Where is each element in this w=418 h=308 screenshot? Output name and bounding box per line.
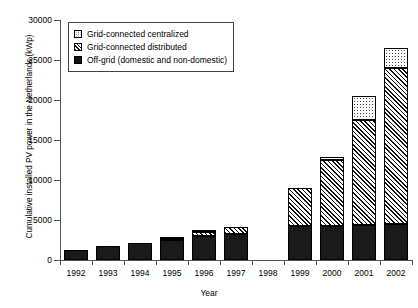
bar-segment [384,68,408,224]
x-axis-tick [92,260,93,265]
x-axis-tick [284,260,285,265]
pv-power-bar-chart: Cumulative installed PV power in the Net… [0,0,418,308]
y-axis-tick [54,140,60,141]
bar-segment [320,160,344,226]
bar-segment [160,237,184,239]
y-axis-tick [54,60,60,61]
y-axis-tick-label: 15000 [0,136,52,145]
y-axis-tick-label: 25000 [0,56,52,65]
legend-item-label: Grid-connected distributed [87,43,187,52]
bar-segment [288,226,312,260]
x-axis-tick [220,260,221,265]
legend-item: Grid-connected centralized [74,28,227,40]
y-axis-tick [54,180,60,181]
legend-item-label: Off-grid (domestic and non-domestic) [87,56,227,65]
x-axis-tick [380,260,381,265]
bar-segment [288,188,312,226]
bar-segment [192,232,216,236]
bar-segment [128,243,152,260]
legend-item: Off-grid (domestic and non-domestic) [74,54,227,66]
y-axis-tick-label: 30000 [0,16,52,25]
x-axis-tick-label: 2002 [376,268,416,278]
x-axis-title: Year [0,288,418,298]
filled-square-icon [74,56,82,64]
x-axis-tick [252,260,253,265]
bar-segment [64,250,88,260]
x-axis-tick [316,260,317,265]
bar-segment [352,120,376,225]
bar-segment [96,246,120,260]
bar-segment [160,240,184,260]
x-axis-line [60,260,413,261]
hatched-square-icon [74,43,82,51]
bar-segment [352,96,376,120]
y-axis-tick-labels: 050001000015000200002500030000 [0,0,52,308]
legend-item-label: Grid-connected centralized [87,30,189,39]
y-axis-tick-label: 20000 [0,96,52,105]
bar-segment [224,234,248,260]
y-axis-tick [54,220,60,221]
bar-segment [224,227,248,233]
legend-item: Grid-connected distributed [74,41,227,53]
bar-segment [320,226,344,260]
chart-legend: Grid-connected centralizedGrid-connected… [68,22,234,72]
x-axis-tick [60,260,61,265]
x-axis-tick [124,260,125,265]
y-axis-tick-label: 0 [0,256,52,265]
bar-2001 [352,20,376,260]
bar-segment [352,225,376,260]
y-axis-tick [54,100,60,101]
bar-segment [320,157,344,160]
x-axis-tick [188,260,189,265]
bar-segment [192,236,216,260]
y-axis-tick-label: 5000 [0,216,52,225]
bar-2000 [320,20,344,260]
y-axis-tick-label: 10000 [0,176,52,185]
bar-segment [384,48,408,68]
x-axis-tick [156,260,157,265]
dotted-square-icon [74,30,82,38]
bar-segment [384,224,408,260]
x-axis-tick [412,260,413,265]
x-axis-tick [348,260,349,265]
bar-segment [192,230,216,232]
bar-2002 [384,20,408,260]
y-axis-tick [54,20,60,21]
bar-1999 [288,20,312,260]
